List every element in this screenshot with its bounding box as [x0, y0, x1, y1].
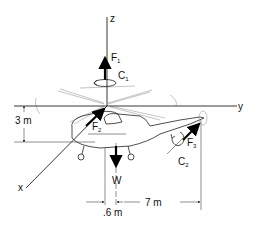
- z-axis-label: z: [110, 13, 115, 24]
- dimension-height: 3 m: [15, 115, 32, 126]
- helicopter-force-diagram: z y x F1 C1 F2 F3 C2 W 3 m .6 m 7 m: [0, 0, 259, 226]
- force-f1-label: F1: [111, 52, 121, 64]
- force-w-label: W: [112, 175, 122, 186]
- couple-c1-label: C1: [118, 70, 129, 82]
- dimension-tail-distance: 7 m: [145, 197, 162, 208]
- dimension-w-offset: .6 m: [103, 207, 122, 218]
- couple-c2-label: C2: [178, 156, 189, 168]
- couple-c1-icon: [94, 80, 116, 87]
- force-f2-label: F2: [92, 121, 102, 133]
- y-axis-label: y: [238, 101, 243, 112]
- force-f3-label: F3: [187, 137, 197, 149]
- x-axis-label: x: [18, 182, 23, 193]
- main-rotor-blades: [36, 86, 177, 124]
